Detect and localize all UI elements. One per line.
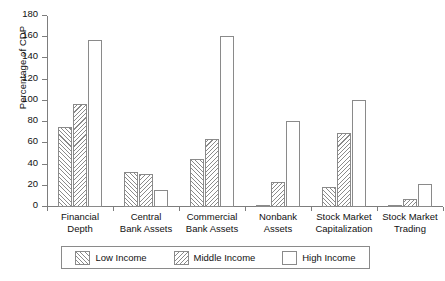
- bar: [73, 104, 87, 207]
- y-axis-tick-label: 20: [27, 178, 38, 189]
- y-axis-tick-label: 0: [33, 199, 38, 210]
- bar: [337, 133, 351, 207]
- bar: [388, 205, 402, 207]
- bar: [286, 121, 300, 207]
- plot-area: 020406080100120140160180: [47, 16, 443, 207]
- bar: [271, 182, 285, 207]
- bar: [139, 174, 153, 207]
- legend-label: High Income: [302, 252, 355, 263]
- y-axis-title: Percentage of CDP: [17, 0, 28, 138]
- legend-swatch-icon: [282, 251, 297, 265]
- bar-group: [47, 16, 113, 207]
- y-axis-tick-label: 180: [22, 8, 38, 19]
- bar: [124, 172, 138, 207]
- bar: [58, 127, 72, 207]
- legend-label: Middle Income: [194, 252, 256, 263]
- bar: [88, 40, 102, 207]
- bar: [220, 36, 234, 207]
- legend-entry[interactable]: High Income: [282, 251, 355, 265]
- y-axis-tick-label: 100: [22, 93, 38, 104]
- y-axis-tick-label: 60: [27, 135, 38, 146]
- bar: [403, 199, 417, 207]
- y-axis-tick-label: 160: [22, 29, 38, 40]
- bar-chart: Percentage of CDP 0204060801001201401601…: [0, 0, 445, 281]
- bar: [352, 100, 366, 207]
- legend-label: Low Income: [95, 252, 146, 263]
- bar-group: [179, 16, 245, 207]
- legend-entry[interactable]: Low Income: [75, 251, 146, 265]
- category-label-line: Stock Market: [367, 211, 445, 223]
- bar-group: [113, 16, 179, 207]
- y-axis-tick-label: 140: [22, 50, 38, 61]
- y-axis-tick-label: 80: [27, 114, 38, 125]
- y-axis-tick-label: 40: [27, 157, 38, 168]
- bar-group: [377, 16, 443, 207]
- category-label-line: Trading: [367, 223, 445, 235]
- x-axis-category-label: Stock MarketTrading: [367, 211, 445, 234]
- legend-entry[interactable]: Middle Income: [174, 251, 256, 265]
- bar: [154, 190, 168, 207]
- chart-legend: Low IncomeMiddle IncomeHigh Income: [61, 246, 370, 269]
- bar-group: [245, 16, 311, 207]
- legend-swatch-icon: [174, 251, 189, 265]
- bar: [205, 139, 219, 207]
- bar-group: [311, 16, 377, 207]
- bar: [190, 159, 204, 207]
- legend-swatch-icon: [75, 251, 90, 265]
- bar: [256, 205, 270, 207]
- bar: [418, 184, 432, 207]
- y-axis-tick-label: 120: [22, 72, 38, 83]
- bar: [322, 187, 336, 207]
